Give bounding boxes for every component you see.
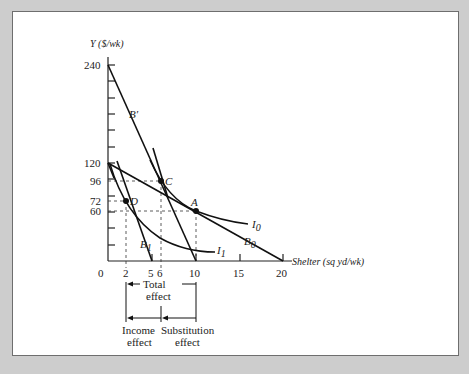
label-i0: I0 (251, 218, 261, 233)
y-tick-240: 240 (84, 59, 101, 71)
y-tick-96: 96 (90, 175, 102, 187)
label-c: C (165, 175, 173, 187)
income-effect-label-1: Income (122, 324, 155, 336)
y-tick-60: 60 (90, 205, 102, 217)
label-b-prime: B′ (129, 108, 139, 120)
x-axis-label: Shelter (sq yd/wk) (292, 256, 365, 268)
substitution-effect-label-2: effect (175, 336, 200, 348)
x-tick-20: 20 (276, 267, 288, 279)
x-tick-15: 15 (233, 267, 245, 279)
y-tick-120: 120 (84, 157, 101, 169)
y-axis-label: Y ($/wk) (90, 38, 124, 50)
chart: Y ($/wk) Shelter (sq yd/wk) 240 120 96 7… (0, 0, 469, 374)
axes (108, 57, 292, 261)
point-d (123, 198, 129, 204)
x-tick-10: 10 (189, 267, 201, 279)
tangent-segment-c (153, 148, 168, 198)
label-a: A (190, 196, 198, 208)
label-d: D (129, 195, 138, 207)
point-c (158, 178, 164, 184)
income-effect-label-2: effect (127, 336, 152, 348)
total-effect-label-1: Total (143, 278, 165, 290)
point-a (193, 208, 199, 214)
label-i1: I1 (216, 244, 226, 259)
label-b0: B0 (244, 235, 256, 250)
x-tick-0: 0 (98, 267, 104, 279)
total-effect-label-2: effect (146, 290, 171, 302)
x-tick-2: 2 (123, 267, 129, 279)
substitution-effect-label-1: Substitution (161, 324, 215, 336)
label-b1: B1 (140, 238, 152, 253)
